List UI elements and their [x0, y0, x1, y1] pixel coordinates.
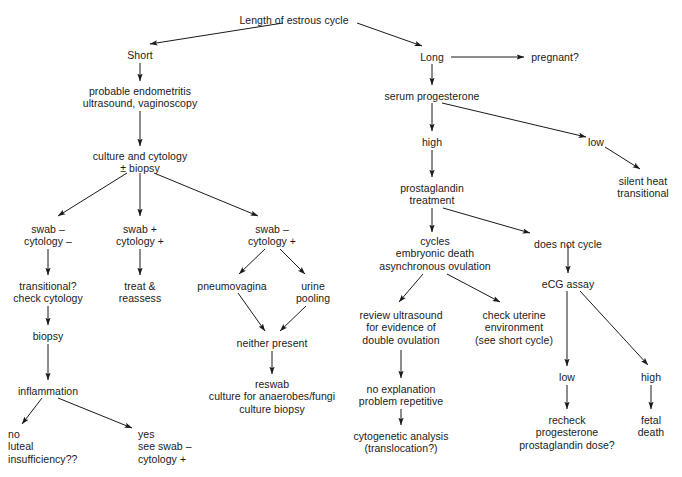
edge-ecg_assay-to-high_ecg — [580, 291, 648, 365]
edge-root-to-long — [357, 23, 422, 46]
node-low_ecg: low — [559, 371, 575, 383]
edge-low_prog-to-silent_heat — [605, 147, 640, 169]
edge-inflammation-to-no_luteal — [22, 398, 42, 424]
node-serum_prog: serum progesterone — [385, 90, 480, 102]
node-short: Short — [127, 49, 152, 61]
node-check_uterine: check uterine environment (see short cyc… — [475, 309, 553, 346]
node-treat_reassess: treat & reassess — [119, 280, 161, 305]
node-swab_neg_cyt_pos: swab – cytology + — [248, 223, 296, 248]
node-cycles: cycles embryonic death asynchronous ovul… — [379, 235, 490, 272]
node-endometritis: probable endometritis ultrasound, vagino… — [83, 85, 197, 110]
node-prostaglandin: prostaglandin treatment — [400, 182, 464, 207]
node-transitional: transitional? check cytology — [13, 280, 83, 305]
edge-swab_neg_cyt_pos-to-pneumovagina — [239, 249, 265, 274]
node-ecg_assay: eCG assay — [542, 278, 594, 290]
edge-serum_prog-to-low_prog — [442, 103, 586, 137]
node-low_prog: low — [588, 136, 604, 148]
node-pregnant: pregnant? — [531, 51, 579, 63]
node-silent_heat: silent heat transitional — [617, 175, 668, 200]
node-urine_pooling: urine pooling — [296, 280, 330, 305]
node-cytogenetic: cytogenetic analysis (translocation?) — [354, 430, 449, 455]
node-swab_neg_cyt_neg: swab – cytology – — [24, 223, 72, 248]
node-review_us: review ultrasound for evidence of double… — [359, 309, 442, 346]
node-root: Length of estrous cycle — [239, 14, 348, 26]
edge-swab_neg_cyt_pos-to-urine_pooling — [280, 249, 305, 274]
node-no_luteal: no luteal insufficiency?? — [8, 428, 77, 465]
edge-urine_pooling-to-neither_present — [280, 306, 306, 331]
node-culture_cytology: culture and cytology ± biopsy — [93, 150, 187, 175]
node-high: high — [422, 136, 442, 148]
flowchart-canvas: Length of estrous cycleShortLongpregnant… — [0, 0, 682, 477]
edge-cycles-to-check_uterine — [447, 274, 500, 302]
edge-culture_cytology-to-swab_neg_cyt_pos — [154, 173, 258, 216]
edge-pneumovagina-to-neither_present — [238, 293, 265, 331]
node-does_not_cycle: does not cycle — [534, 238, 602, 250]
node-swab_pos_cyt_pos: swab + cytology + — [116, 223, 164, 248]
node-biopsy: biopsy — [33, 330, 64, 342]
node-no_explanation: no explanation problem repetitive — [359, 383, 443, 408]
node-pneumovagina: pneumovagina — [197, 280, 267, 292]
node-reswab: reswab culture for anaerobes/fungi cultu… — [209, 378, 335, 415]
node-recheck: recheck progesterone prostaglandin dose? — [519, 414, 615, 451]
node-fetal_death: fetal death — [638, 414, 665, 439]
edge-culture_cytology-to-swab_neg_cyt_neg — [58, 173, 127, 216]
node-long: Long — [420, 51, 444, 63]
edge-cycles-to-review_us — [399, 274, 423, 302]
node-high_ecg: high — [641, 371, 661, 383]
edge-inflammation-to-yes_see_swab — [58, 398, 132, 428]
node-neither_present: neither present — [237, 337, 308, 349]
node-yes_see_swab: yes see swab – cytology + — [138, 428, 192, 465]
edge-prostaglandin-to-does_not_cycle — [443, 208, 530, 233]
node-inflammation: inflammation — [18, 385, 78, 397]
